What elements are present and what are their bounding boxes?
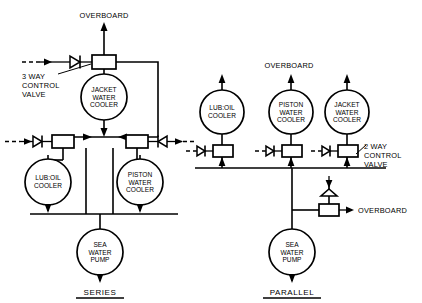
two-way-valve-label-line1: 2 WAY xyxy=(364,142,387,151)
series-right-cone-icon xyxy=(158,136,167,147)
series-pump-label-line3: PUMP xyxy=(90,256,110,263)
cooling-system-diagram: OVERBOARD 3 WAY CONTROL VALVE JACKET WAT… xyxy=(0,0,422,303)
parallel-jacket-cooler-label-line3: COOLER xyxy=(333,116,361,123)
parallel-piston-cooler-label-line1: PISTON xyxy=(279,101,304,108)
parallel-lub-oil-cooler-label-line2: COOLER xyxy=(208,112,236,119)
series-left-inlet-arrow xyxy=(24,138,32,145)
series-inlet-cone-icon xyxy=(70,56,80,68)
jacket-cooler-inflow-arrow xyxy=(101,128,108,137)
parallel-circuit-group: OVERBOARD LUB:OIL COOLER PISTON WATER CO… xyxy=(186,61,407,298)
series-circuit-group: OVERBOARD 3 WAY CONTROL VALVE JACKET WAT… xyxy=(5,11,196,298)
parallel-relief-valve-actuator-icon xyxy=(321,189,337,196)
series-manifold-arrow-left xyxy=(83,134,92,141)
two-way-valve-label-line2: CONTROL xyxy=(364,151,402,160)
parallel-pump-label-line1: SEA xyxy=(285,241,299,248)
parallel-two-way-control-valve[interactable] xyxy=(338,145,358,157)
parallel-pump-label-line3: PUMP xyxy=(282,256,302,263)
parallel-piston-cooler-label-line3: COOLER xyxy=(277,116,305,123)
parallel-jacket-riser-arrow xyxy=(344,74,351,83)
parallel-overboard-label: OVERBOARD xyxy=(264,61,313,70)
series-piston-cooler-label-line2: WATER xyxy=(128,179,151,186)
parallel-piston-riser-arrow xyxy=(288,74,295,83)
series-piston-cooler-label-line3: COOLER xyxy=(126,186,154,193)
parallel-v1-up-arrow xyxy=(219,157,226,166)
parallel-relief-valve-arrow xyxy=(326,180,333,188)
series-lub-oil-cooler-label-line2: COOLER xyxy=(34,182,62,189)
series-left-cone-icon xyxy=(33,136,42,147)
parallel-v3-cone-icon xyxy=(322,146,330,156)
series-overboard-label: OVERBOARD xyxy=(79,11,128,20)
parallel-lub-oil-riser-arrow xyxy=(219,74,226,83)
series-piston-water-inlet-valve[interactable] xyxy=(126,135,148,148)
parallel-v3-up-arrow xyxy=(344,157,351,166)
series-inlet-arrow xyxy=(44,59,52,66)
piston-cooler-outlet-arrow xyxy=(137,204,144,213)
parallel-relief-outlet-arrow xyxy=(346,207,354,214)
series-piston-cooler-label-line1: PISTON xyxy=(128,171,153,178)
series-jacket-cooler-label-line3: COOLER xyxy=(90,101,118,108)
series-pump-outlet-arrow xyxy=(97,274,104,283)
parallel-jacket-cooler-label-line2: WATER xyxy=(335,109,358,116)
parallel-piston-cooler-label-line2: WATER xyxy=(279,109,302,116)
three-way-valve-label-line3: VALVE xyxy=(22,90,46,99)
lub-oil-cooler-outlet-arrow xyxy=(45,204,52,213)
parallel-v2-cone-icon xyxy=(266,146,274,156)
series-pump-label-line1: SEA xyxy=(93,241,107,248)
three-way-valve-label-line2: CONTROL xyxy=(22,81,60,90)
series-lub-oil-cooler-label-line1: LUB:OIL xyxy=(35,174,61,181)
series-jacket-cooler-label-line2: WATER xyxy=(92,94,115,101)
series-lub-oil-inlet-valve[interactable] xyxy=(52,135,74,148)
series-title: SERIES xyxy=(84,288,117,297)
parallel-v2-up-arrow xyxy=(288,157,295,166)
series-jacket-cooler-label-line1: JACKET xyxy=(91,86,116,93)
parallel-lub-oil-inlet-valve[interactable] xyxy=(213,145,233,157)
parallel-v1-cone-icon xyxy=(197,146,205,156)
series-overboard-arrow xyxy=(101,22,108,31)
parallel-jacket-cooler-label-line1: JACKET xyxy=(334,101,359,108)
parallel-pump-outlet-arrow xyxy=(289,274,296,283)
three-way-control-valve-body[interactable] xyxy=(92,55,116,69)
parallel-relief-overboard-label: OVERBOARD xyxy=(358,206,407,215)
parallel-relief-valve-body[interactable] xyxy=(319,204,339,216)
parallel-pump-label-line2: WATER xyxy=(280,249,303,256)
three-way-valve-label-line1: 3 WAY xyxy=(22,72,45,81)
parallel-piston-water-inlet-valve[interactable] xyxy=(282,145,302,157)
series-pump-label-line2: WATER xyxy=(88,249,111,256)
parallel-title: PARALLEL xyxy=(270,288,315,297)
series-right-outlet-arrow xyxy=(175,138,183,145)
parallel-lub-oil-cooler-label-line1: LUB:OIL xyxy=(209,104,235,111)
